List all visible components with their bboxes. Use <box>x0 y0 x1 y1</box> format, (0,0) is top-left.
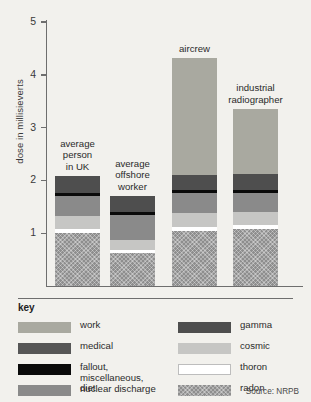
bar-segment-radon <box>110 253 155 286</box>
legend-label: thoron <box>240 361 267 372</box>
legend-swatch-thoron <box>178 364 231 375</box>
bar-segment-diet <box>172 193 217 213</box>
legend-label: gamma <box>240 319 272 330</box>
legend-swatch-diet <box>18 385 71 396</box>
bar-segment-diet <box>110 215 155 240</box>
bar-segment-radon <box>55 233 100 286</box>
y-tick-mark <box>41 74 46 75</box>
legend-item-thoron[interactable]: thoron <box>178 362 303 383</box>
legend-swatch-radon <box>178 385 231 396</box>
y-tick-mark <box>41 127 46 128</box>
bar-industrial-radiographer <box>233 109 278 286</box>
legend: key workmedicalfallout, miscellaneous, n… <box>0 296 311 402</box>
legend-item-fallout[interactable]: fallout, miscellaneous, nuclear discharg… <box>18 362 168 383</box>
bar-segment-gamma <box>110 196 155 212</box>
x-axis-line <box>46 286 303 287</box>
bar-label: industrial radiographer <box>217 82 294 105</box>
bar-average-person-in-uk <box>55 176 100 286</box>
legend-swatch-fallout <box>18 364 71 375</box>
y-tick-label: 2 <box>6 173 36 185</box>
legend-swatch-medical <box>18 343 71 354</box>
bar-segment-work <box>233 109 278 174</box>
y-tick-label: 4 <box>6 68 36 80</box>
legend-swatch-gamma <box>178 322 231 333</box>
plot-area: dose in millisieverts 12345 average pers… <box>0 0 311 296</box>
legend-label: work <box>80 319 100 330</box>
legend-item-gamma[interactable]: gamma <box>178 320 303 341</box>
legend-swatch-cosmic <box>178 343 231 354</box>
y-tick-label: 1 <box>6 226 36 238</box>
legend-label: medical <box>80 340 113 351</box>
chart-root: dose in millisieverts 12345 average pers… <box>0 0 311 402</box>
bar-aircrew <box>172 58 217 286</box>
bar-segment-work <box>172 58 217 174</box>
bar-segment-cosmic <box>172 213 217 227</box>
legend-item-cosmic[interactable]: cosmic <box>178 341 303 362</box>
y-tick-label: 5 <box>6 15 36 27</box>
legend-item-work[interactable]: work <box>18 320 168 341</box>
legend-title: key <box>18 302 35 313</box>
bar-label: average offshore worker <box>94 158 171 192</box>
bar-segment-cosmic <box>110 240 155 250</box>
y-tick-mark <box>41 21 46 22</box>
bar-segment-cosmic <box>233 212 278 226</box>
legend-item-diet[interactable]: diet <box>18 383 168 402</box>
y-tick-mark <box>41 180 46 181</box>
bar-segment-cosmic <box>55 216 100 230</box>
legend-item-medical[interactable]: medical <box>18 341 168 362</box>
bar-segment-gamma <box>233 174 278 190</box>
bar-average-offshore-worker <box>110 196 155 286</box>
legend-label: cosmic <box>240 340 270 351</box>
legend-divider <box>18 298 293 299</box>
bar-segment-radon <box>233 229 278 286</box>
bar-segment-diet <box>233 193 278 212</box>
legend-label: diet <box>80 382 95 393</box>
y-tick-mark <box>41 233 46 234</box>
source-credit: Source: NRPB <box>246 387 299 396</box>
bar-segment-gamma <box>172 175 217 191</box>
legend-swatch-work <box>18 322 71 333</box>
bar-segment-radon <box>172 231 217 286</box>
bar-label: aircrew <box>156 43 233 54</box>
bar-segment-diet <box>55 196 100 216</box>
y-tick-label: 3 <box>6 121 36 133</box>
legend-column-left: workmedicalfallout, miscellaneous, nucle… <box>18 320 168 402</box>
